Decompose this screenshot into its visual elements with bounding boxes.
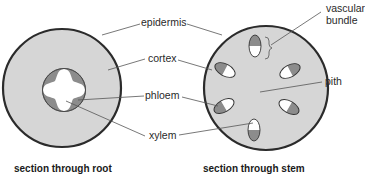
diagram-canvas: epidermis cortex phloem xylem vascular b… xyxy=(0,0,365,176)
label-cortex: cortex xyxy=(148,52,177,64)
label-vascular-bundle-line1: vascular xyxy=(326,2,365,14)
root-stele xyxy=(43,69,86,112)
label-epidermis: epidermis xyxy=(141,16,187,28)
stem-epidermis xyxy=(204,26,328,150)
caption-root: section through root xyxy=(14,163,112,174)
label-phloem: phloem xyxy=(145,89,180,101)
root-section xyxy=(3,29,121,147)
label-vascular-bundle-line2: bundle xyxy=(326,14,358,26)
label-pith: pith xyxy=(325,75,342,87)
caption-stem: section through stem xyxy=(203,163,305,174)
label-xylem: xylem xyxy=(149,129,177,141)
stem-section xyxy=(204,26,328,150)
